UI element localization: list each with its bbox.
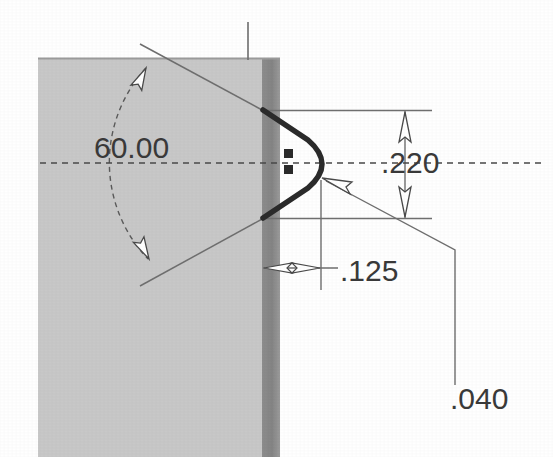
height-dimension-label: .220 (381, 146, 439, 179)
height-arrowhead-up (399, 112, 411, 142)
radius-arrowhead (322, 178, 352, 194)
radius-dimension-label: .040 (450, 382, 508, 415)
depth-dimension-label: .125 (340, 254, 398, 287)
technical-drawing-canvas: 60.00 .220 .125 .040 (0, 0, 553, 457)
corner-marker-upper (284, 149, 293, 158)
height-arrowhead-down (399, 187, 411, 217)
block-face (38, 58, 262, 457)
corner-marker-lower (284, 165, 293, 174)
depth-arrowhead-right (292, 263, 320, 273)
sectioned-block (38, 58, 280, 457)
angle-dimension-label: 60.00 (94, 131, 169, 164)
